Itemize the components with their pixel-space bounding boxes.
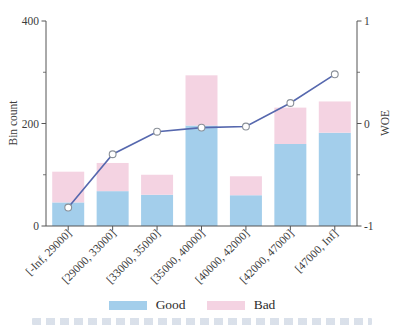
woe-binning-figure: 0200400-101[-Inf, 29000][29000, 33000][3… [0,0,396,325]
legend: Good Bad [0,297,396,313]
bar-bad-5 [274,108,306,144]
bar-bad-3 [186,75,218,125]
bar-bad-0 [52,172,84,203]
y-tick-label-right-1: 1 [364,15,370,27]
woe-marker-3 [198,124,205,131]
bar-good-1 [97,191,129,226]
x-tick-label-6: [47000, Inf] [292,227,340,275]
left-axis-title: Bin count [7,100,19,145]
y-tick-label-left-200: 200 [22,118,40,130]
legend-label-good: Good [156,297,186,313]
bar-good-6 [319,133,351,226]
y-tick-label-right--1: -1 [364,220,374,232]
cropped-caption [32,318,372,325]
bar-bad-4 [230,176,262,195]
bar-good-2 [141,195,173,226]
bar-good-5 [274,144,306,226]
bar-good-3 [186,126,218,226]
bar-good-4 [230,195,262,226]
bar-bad-2 [141,175,173,195]
woe-marker-6 [331,71,338,78]
legend-label-bad: Bad [254,297,276,313]
woe-marker-2 [154,128,161,135]
woe-marker-0 [65,204,72,211]
woe-marker-4 [243,123,250,130]
bar-bad-6 [319,101,351,132]
y-tick-label-right-0: 0 [364,118,370,130]
legend-swatch-good [109,301,147,310]
right-axis-title: WOE [379,110,391,136]
chart-canvas: 0200400-101[-Inf, 29000][29000, 33000][3… [0,0,396,325]
legend-swatch-bad [207,301,245,310]
y-tick-label-left-0: 0 [33,220,39,232]
woe-marker-5 [287,100,294,107]
woe-marker-1 [109,151,116,158]
y-tick-label-left-400: 400 [22,15,40,27]
